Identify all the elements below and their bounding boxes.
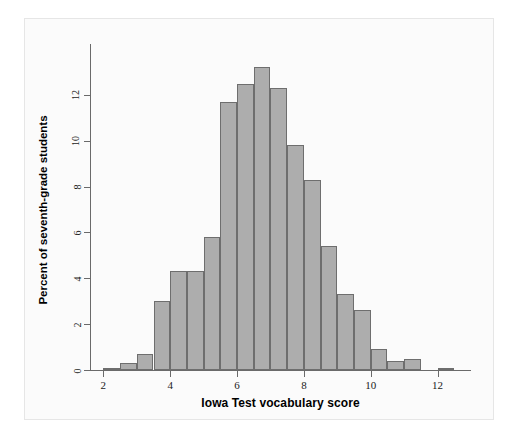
y-tick-label-8: 8 [72,185,83,190]
histogram-bar [337,294,354,370]
histogram-bar [204,237,221,370]
y-axis-title: Percent of seventh-grade students [34,90,52,330]
y-tick-label-12: 12 [70,90,81,100]
x-tick-label-12: 12 [432,379,443,391]
y-tick-12: 12 [84,95,90,96]
histogram-bar [438,368,455,370]
y-tick-label-6: 6 [72,230,83,235]
histogram-bar [321,246,338,370]
x-tick-label-4: 4 [167,379,173,391]
x-axis-line [90,370,471,371]
y-tick-10: 10 [84,141,90,142]
histogram-bar [254,67,271,370]
histogram-bar [187,271,204,370]
x-tick-6 [237,371,238,377]
histogram-bar [103,368,120,370]
x-tick-2 [103,371,104,377]
histogram-bar [304,180,321,370]
histogram-bar [404,359,421,370]
y-tick-label-0: 0 [72,368,83,373]
histogram-bar [220,102,237,370]
histogram-bar [270,88,287,370]
x-axis-title: Iowa Test vocabulary score [90,396,471,410]
figure-container: 024681012 24681012 Percent of seventh-gr… [0,0,516,437]
x-tick-12 [438,371,439,377]
histogram-bar [137,354,154,370]
x-tick-10 [371,371,372,377]
x-tick-label-10: 10 [365,379,376,391]
histogram-bar [287,145,304,370]
x-tick-4 [170,371,171,377]
y-axis-line [90,44,91,371]
y-tick-8: 8 [84,187,90,188]
x-tick-label-6: 6 [234,379,240,391]
x-tick-label-8: 8 [301,379,307,391]
x-tick-8 [304,371,305,377]
y-tick-2: 2 [84,324,90,325]
x-tick-label-2: 2 [101,379,107,391]
histogram-plot: 024681012 24681012 Percent of seventh-gr… [0,0,516,437]
y-tick-0: 0 [84,370,90,371]
histogram-bar [170,271,187,370]
histogram-bar [354,310,371,370]
histogram-bar [154,301,171,370]
y-tick-label-2: 2 [72,322,83,327]
histogram-bar [120,363,137,370]
y-axis-title-text: Percent of seventh-grade students [37,115,49,304]
y-tick-4: 4 [84,278,90,279]
y-tick-6: 6 [84,232,90,233]
histogram-bar [237,84,254,370]
y-tick-label-4: 4 [72,276,83,281]
histogram-bar [387,361,404,370]
y-tick-label-10: 10 [70,136,81,146]
histogram-bar [371,349,388,370]
